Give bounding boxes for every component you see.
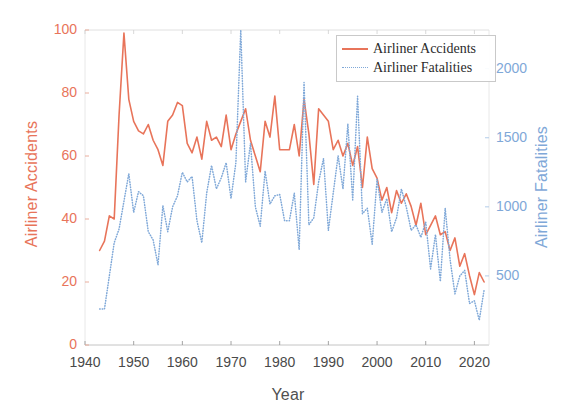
x-tick-label: 2010 — [403, 354, 449, 370]
chart-figure: Airliner Accidents Airliner Fatalities Y… — [0, 0, 576, 418]
x-tick-label: 2000 — [354, 354, 400, 370]
x-tick-label: 1960 — [159, 354, 205, 370]
x-tick-label: 1940 — [62, 354, 108, 370]
y-tick-label-left: 80 — [37, 84, 77, 100]
legend-item-fatalities[interactable]: Airliner Fatalities — [342, 58, 490, 77]
x-tick-label: 1970 — [208, 354, 254, 370]
y-tick-label-left: 60 — [37, 147, 77, 163]
x-tick-label: 2020 — [451, 354, 497, 370]
y-axis-right-title: Airliner Fatalities — [533, 77, 551, 297]
y-tick-label-right: 2000 — [496, 60, 542, 76]
legend-line-dotted-icon — [342, 62, 368, 74]
y-tick-label-left: 100 — [37, 21, 77, 37]
chart-legend: Airliner Accidents Airliner Fatalities — [336, 35, 496, 82]
legend-item-accidents[interactable]: Airliner Accidents — [342, 39, 490, 58]
x-axis-title: Year — [0, 386, 576, 404]
y-axis-left-title: Airliner Accidents — [23, 74, 41, 294]
legend-label-fatalities: Airliner Fatalities — [373, 60, 472, 76]
y-tick-label-right: 1500 — [496, 129, 542, 145]
x-tick-label: 1980 — [257, 354, 303, 370]
x-tick-label: 1990 — [305, 354, 351, 370]
y-tick-label-left: 0 — [37, 336, 77, 352]
legend-label-accidents: Airliner Accidents — [373, 41, 476, 57]
y-tick-label-left: 20 — [37, 273, 77, 289]
x-tick-label: 1950 — [111, 354, 157, 370]
y-tick-label-left: 40 — [37, 210, 77, 226]
y-tick-label-right: 500 — [496, 267, 542, 283]
legend-line-solid-icon — [342, 43, 368, 55]
y-tick-label-right: 1000 — [496, 198, 542, 214]
